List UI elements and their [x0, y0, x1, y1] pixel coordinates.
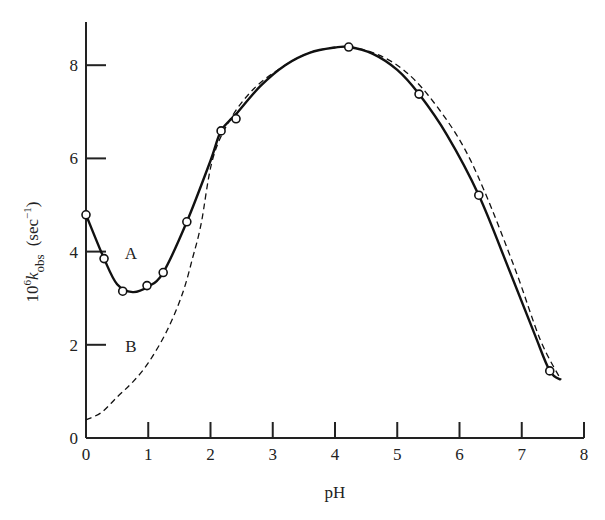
data-point-marker [232, 115, 240, 123]
data-point-marker [159, 269, 167, 277]
x-tick-label: 7 [518, 445, 527, 464]
data-point-marker [119, 287, 127, 295]
x-tick-label: 2 [206, 445, 215, 464]
y-tick-label: 0 [70, 429, 79, 448]
data-point-marker [415, 90, 423, 98]
x-tick-label: 6 [455, 445, 464, 464]
x-axis-title: pH [325, 483, 346, 502]
data-point-marker [475, 191, 483, 199]
curve-label-b: B [125, 337, 136, 356]
svg-text:106kobs(sec−1): 106kobs(sec−1) [21, 202, 47, 303]
x-tick-label: 8 [580, 445, 589, 464]
curve-label-a: A [125, 244, 138, 263]
y-tick-label: 2 [70, 336, 79, 355]
data-point-marker [345, 43, 353, 51]
x-tick-label: 0 [82, 445, 91, 464]
y-tick-label: 6 [70, 149, 79, 168]
x-axis-ticks: 012345678 [82, 422, 589, 464]
x-tick-label: 1 [144, 445, 153, 464]
x-tick-label: 4 [331, 445, 340, 464]
data-point-marker [143, 282, 151, 290]
x-tick-label: 3 [269, 445, 278, 464]
curve-b-dashed [86, 47, 561, 420]
y-axis-title: 106kobs(sec−1) [21, 202, 47, 303]
data-point-marker [183, 218, 191, 226]
axes [86, 22, 584, 438]
y-tick-label: 8 [70, 56, 79, 75]
curve-a-solid [86, 46, 561, 379]
plot-area [82, 43, 561, 420]
data-point-marker [546, 367, 554, 375]
curve-labels: AB [125, 244, 138, 356]
data-point-marker [82, 211, 90, 219]
x-tick-label: 5 [393, 445, 402, 464]
y-tick-label: 4 [70, 243, 79, 262]
chart: 02468 012345678 AB pH 106kobs(sec−1) [0, 0, 605, 520]
data-point-marker [100, 255, 108, 263]
data-point-marker [217, 127, 225, 135]
